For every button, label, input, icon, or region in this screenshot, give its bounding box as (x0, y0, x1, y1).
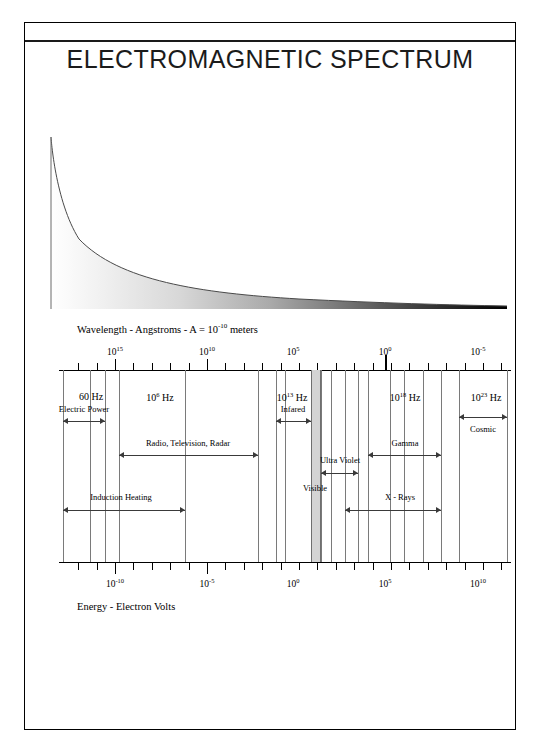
gridline (423, 370, 424, 562)
axis-tick-minor (373, 363, 374, 370)
spectrum-wedge (49, 131, 509, 309)
arrow-head-right (253, 452, 258, 458)
freq-unit: Hz (160, 392, 174, 403)
arrow-head-left (276, 418, 281, 424)
axis-tick-minor (391, 563, 392, 570)
axis-tick-minor (281, 563, 282, 570)
band-arrow-ultra-violet (321, 470, 358, 477)
tick-exponent: -10 (115, 577, 124, 584)
band-arrow-induction-heating (63, 507, 185, 514)
axis-tick-minor (170, 363, 171, 370)
band-arrow-electric-power (63, 418, 105, 425)
wavelength-caption-exponent: -10 (218, 322, 227, 330)
wavelength-tick-label: 105 (287, 345, 300, 357)
arrow-shaft (368, 455, 441, 456)
arrow-shaft (345, 510, 441, 511)
freq-unit: Hz (487, 392, 501, 403)
freq-mantissa: 10 (471, 392, 481, 403)
axis-tick-minor (391, 363, 392, 370)
axis-tick-minor (465, 363, 466, 370)
axis-tick-minor (409, 363, 410, 370)
arrow-shaft (119, 455, 258, 456)
gridline (258, 370, 259, 562)
band-label-gamma: Gamma (392, 438, 419, 448)
axis-tick-major (115, 563, 116, 574)
arrow-head-right (180, 507, 185, 513)
arrow-head-left (345, 507, 350, 513)
tick-exponent: 10 (480, 577, 487, 584)
axis-tick-minor (133, 363, 134, 370)
band-arrow-infared (276, 418, 311, 425)
energy-tick-label: 10-5 (200, 577, 215, 589)
band-label-electric-power: Electric Power (59, 404, 109, 414)
tick-mantissa: 10 (287, 579, 297, 589)
arrow-head-left (321, 470, 326, 476)
energy-axis-line (59, 562, 511, 563)
gridline (368, 370, 369, 562)
axis-tick-minor (483, 563, 484, 570)
axis-tick-minor (152, 363, 153, 370)
band-arrow-radio-television-radar (119, 452, 258, 459)
tick-mantissa: 10 (470, 579, 480, 589)
arrow-head-right (502, 414, 507, 420)
freq-mantissa: 10 (390, 392, 400, 403)
arrow-head-left (63, 418, 68, 424)
axis-tick-minor (428, 363, 429, 370)
axis-tick-minor (244, 363, 245, 370)
gridline (358, 370, 359, 562)
axis-tick-minor (189, 563, 190, 570)
wavelength-caption-prefix: Wavelength - Angstroms - A = 10 (77, 324, 218, 335)
axis-tick-minor (299, 563, 300, 570)
wavelength-caption-suffix: meters (227, 324, 258, 335)
arrow-shaft (63, 421, 105, 422)
title-rule (25, 40, 515, 42)
axis-tick-minor (225, 363, 226, 370)
arrow-head-left (119, 452, 124, 458)
band-label-ultra-violet: Ultra Violet (320, 455, 360, 465)
gridline (185, 370, 186, 562)
band-arrow-x-rays (345, 507, 441, 514)
tick-mantissa: 10 (287, 347, 297, 357)
band-arrow-cosmic (459, 414, 507, 421)
axis-tick-minor (501, 363, 502, 370)
freq-unit: Hz (406, 392, 420, 403)
visible-light-band (311, 370, 321, 562)
axis-tick-minor (262, 363, 263, 370)
wavelength-tick-label: 100 (379, 345, 392, 357)
axis-tick-minor (465, 563, 466, 570)
axis-tick-minor (446, 563, 447, 570)
axis-tick-minor (97, 363, 98, 370)
gridline (105, 370, 106, 562)
gridline (63, 370, 64, 562)
gridline (507, 370, 508, 562)
axis-tick-minor (281, 363, 282, 370)
axis-tick-minor (336, 363, 337, 370)
frequency-marker-label: 1013 Hz (277, 391, 308, 403)
arrow-head-left (63, 507, 68, 513)
axis-tick-minor (170, 563, 171, 570)
energy-tick-label: 100 (287, 577, 300, 589)
band-label-x-rays: X - Rays (385, 492, 415, 502)
wavelength-tick-label: 1015 (107, 345, 123, 357)
arrow-head-left (368, 452, 373, 458)
gridline (331, 370, 332, 562)
band-label-radio-television-radar: Radio, Television, Radar (146, 438, 230, 448)
tick-mantissa: 10 (107, 347, 117, 357)
gridline (441, 370, 442, 562)
arrow-shaft (63, 510, 185, 511)
tick-exponent: 5 (388, 577, 391, 584)
gridline (321, 370, 322, 562)
energy-tick-label: 1010 (470, 577, 486, 589)
axis-tick-major (207, 359, 208, 370)
arrow-head-right (100, 418, 105, 424)
tick-exponent: -5 (209, 577, 214, 584)
frequency-marker-label: 1018 Hz (390, 391, 421, 403)
freq-mantissa: 10 (146, 392, 156, 403)
wavelength-tick-label: 1010 (199, 345, 215, 357)
band-arrow-gamma (368, 452, 441, 459)
frequency-marker-label: 1023 Hz (471, 391, 502, 403)
axis-tick-minor (446, 363, 447, 370)
axis-tick-minor (483, 363, 484, 370)
tick-mantissa: 10 (106, 579, 116, 589)
tick-exponent: 10 (209, 345, 216, 352)
